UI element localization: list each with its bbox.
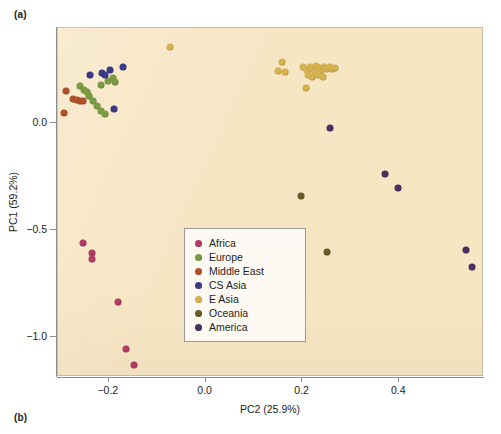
data-point-cs-asia [106,66,113,73]
panel-b-label: (b) [14,412,27,423]
y-tick-mark [50,229,56,230]
data-point-europe [101,110,108,117]
x-axis-line [57,377,484,378]
data-point-e-asia [332,65,339,72]
legend-label: E Asia [209,292,239,306]
legend-swatch-icon [195,254,202,261]
data-point-europe [98,82,105,89]
data-point-oceania [323,248,330,255]
chart-legend: AfricaEuropeMiddle EastCS AsiaE AsiaOcea… [184,228,306,342]
data-point-africa [79,240,86,247]
data-point-e-asia [303,85,310,92]
legend-swatch-icon [195,268,202,275]
data-point-middle-east [63,87,70,94]
panel-a-label: (a) [14,9,27,20]
data-point-africa [115,299,122,306]
x-tick-mark [205,377,206,382]
y-tick-mark [50,122,56,123]
data-point-america [395,184,402,191]
legend-swatch-icon [195,282,202,289]
legend-item-middle-east: Middle East [195,264,297,278]
legend-swatch-icon [195,296,202,303]
data-point-america [381,171,388,178]
data-point-europe [111,79,118,86]
legend-item-africa: Africa [195,236,297,250]
legend-swatch-icon [195,324,202,331]
x-axis-title: PC2 (25.9%) [240,403,300,415]
legend-item-europe: Europe [195,250,297,264]
data-point-cs-asia [87,72,94,79]
data-point-oceania [298,193,305,200]
legend-label: America [209,320,248,334]
legend-swatch-icon [195,310,202,317]
x-tick-label: 0.0 [197,384,212,396]
data-point-middle-east [61,110,68,117]
data-point-america [326,125,333,132]
data-point-africa [89,255,96,262]
figure-panel-a: (a) −0.20.00.20.4 0.0−0.5−1.0 PC2 (25.9%… [0,0,501,434]
y-tick-label: −0.5 [26,223,47,235]
y-tick-mark [50,336,56,337]
data-point-cs-asia [120,63,127,70]
legend-label: Middle East [209,264,264,278]
legend-label: Africa [209,236,236,250]
legend-item-america: America [195,320,297,334]
data-point-africa [130,362,137,369]
legend-label: CS Asia [209,278,246,292]
data-point-middle-east [79,98,86,105]
x-tick-mark [398,377,399,382]
y-axis-line [56,27,57,377]
legend-item-cs-asia: CS Asia [195,278,297,292]
data-point-africa [123,346,130,353]
legend-item-e-asia: E Asia [195,292,297,306]
data-point-e-asia [166,43,173,50]
data-point-e-asia [279,58,286,65]
legend-label: Europe [209,250,243,264]
y-axis-title: PC1 (59.2%) [7,172,19,232]
data-point-america [463,247,470,254]
legend-label: Oceania [209,306,248,320]
y-tick-label: −1.0 [26,330,47,342]
data-point-america [468,263,475,270]
legend-item-oceania: Oceania [195,306,297,320]
x-tick-label: 0.2 [294,384,309,396]
data-point-e-asia [319,73,326,80]
data-point-e-asia [282,68,289,75]
legend-swatch-icon [195,240,202,247]
x-tick-mark [301,377,302,382]
x-tick-label: −0.2 [97,384,118,396]
x-tick-label: 0.4 [391,384,406,396]
data-point-cs-asia [110,106,117,113]
x-tick-mark [108,377,109,382]
y-tick-label: 0.0 [32,116,47,128]
